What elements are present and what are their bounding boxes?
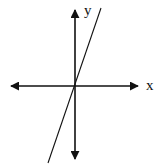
- coordinate-plane: x y: [0, 0, 164, 165]
- x-axis-label: x: [146, 77, 154, 93]
- y-axis-label: y: [84, 2, 92, 18]
